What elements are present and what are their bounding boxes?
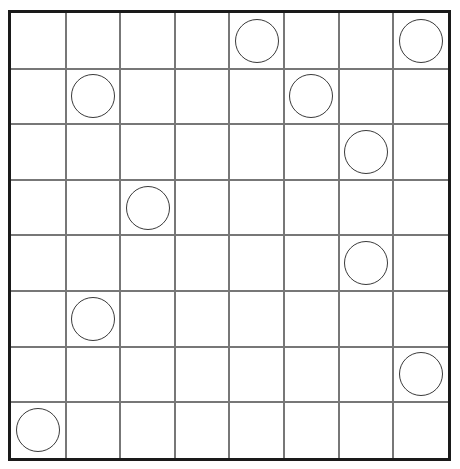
grid-line-horizontal-5 xyxy=(11,290,448,292)
grid-line-horizontal-2 xyxy=(11,123,448,125)
circle-piece[interactable] xyxy=(235,19,279,63)
circle-piece[interactable] xyxy=(71,297,115,341)
grid-border-bottom xyxy=(8,458,451,461)
circle-piece[interactable] xyxy=(126,186,170,230)
circle-piece[interactable] xyxy=(344,130,388,174)
circle-piece[interactable] xyxy=(399,19,443,63)
circle-piece[interactable] xyxy=(71,74,115,118)
grid-line-horizontal-1 xyxy=(11,68,448,70)
grid-line-horizontal-7 xyxy=(11,401,448,403)
circle-piece[interactable] xyxy=(289,74,333,118)
puzzle-stage xyxy=(0,0,460,469)
circle-piece[interactable] xyxy=(344,241,388,285)
grid-board[interactable] xyxy=(11,13,448,458)
grid-border-right xyxy=(448,10,451,461)
grid-line-horizontal-3 xyxy=(11,179,448,181)
grid-line-horizontal-6 xyxy=(11,346,448,348)
grid-line-horizontal-4 xyxy=(11,234,448,236)
circle-piece[interactable] xyxy=(16,408,60,452)
grid-border-left xyxy=(8,10,11,461)
grid-border-top xyxy=(8,10,451,13)
circle-piece[interactable] xyxy=(399,352,443,396)
